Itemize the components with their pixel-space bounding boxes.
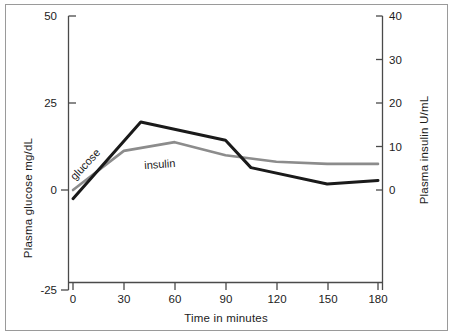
right-tick-label-20: 20 xyxy=(389,97,402,109)
glucose-line xyxy=(73,122,378,199)
insulin-series-label: insulin xyxy=(144,157,176,171)
right-axis-title: Plasma insulin U/mL xyxy=(418,95,430,204)
x-tick-label-30: 30 xyxy=(118,293,131,305)
left-axis-title: Plasma glucose mg/dL xyxy=(22,137,34,258)
left-tick-label-50: 50 xyxy=(44,10,57,22)
x-tick-label-180: 180 xyxy=(368,293,387,305)
left-tick-label-25: 25 xyxy=(44,97,57,109)
x-axis-title: Time in minutes xyxy=(184,312,268,324)
left-tick-label-minus25: -25 xyxy=(40,284,57,296)
x-tick-label-90: 90 xyxy=(220,293,233,305)
x-tick-label-120: 120 xyxy=(267,293,286,305)
right-tick-label-0: 0 xyxy=(389,184,395,196)
x-tick-label-150: 150 xyxy=(318,293,337,305)
right-tick-label-30: 30 xyxy=(389,54,402,66)
left-tick-label-0: 0 xyxy=(51,184,57,196)
x-tick-label-60: 60 xyxy=(169,293,182,305)
x-axis: 0 30 60 90 120 150 180 Time in minutes xyxy=(69,283,388,325)
chart-figure: 50 25 0 -25 Plasma glucose mg/dL 0 30 60… xyxy=(0,0,453,336)
right-tick-label-10: 10 xyxy=(389,141,402,153)
glucose-series-label: glucose xyxy=(68,146,103,182)
x-tick-label-0: 0 xyxy=(70,293,76,305)
right-tick-label-40: 40 xyxy=(389,10,402,22)
chart-plot-area: 50 25 0 -25 Plasma glucose mg/dL 0 30 60… xyxy=(0,0,453,336)
left-axis: 50 25 0 -25 Plasma glucose mg/dL xyxy=(22,10,76,296)
right-axis: 40 30 20 10 0 Plasma insulin U/mL xyxy=(376,10,430,290)
